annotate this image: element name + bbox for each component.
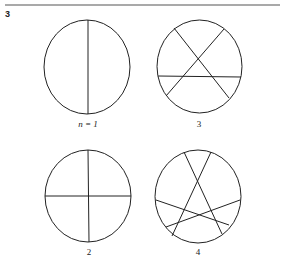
panel-n1 [44,20,130,114]
panel-label-n2: 2 [87,247,92,257]
chord [184,152,222,234]
figure-number: 3 [5,9,10,19]
chord [158,76,241,77]
chord [166,29,224,96]
figure-canvas [0,0,281,260]
panel-n3 [157,20,242,113]
circle [44,20,130,114]
circle [157,20,242,113]
chord [174,28,229,98]
chord [156,200,229,225]
circle [155,150,241,243]
panel-n2 [45,150,131,242]
panel-n4 [155,150,241,243]
panel-label-n3: 3 [197,119,202,129]
chord [172,152,211,236]
panel-label-n1: n = 1 [78,119,98,129]
panel-label-n4: 4 [196,247,201,257]
chord [166,200,240,227]
